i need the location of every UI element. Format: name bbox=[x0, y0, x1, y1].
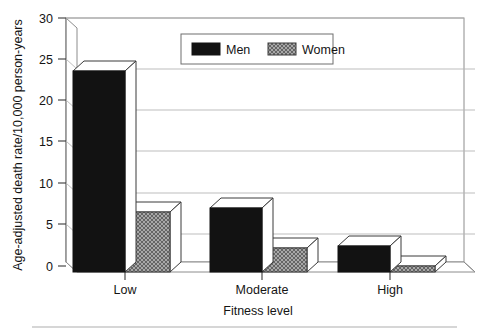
black-swatch-icon bbox=[192, 43, 220, 55]
bar-men-moderate bbox=[210, 198, 273, 272]
x-tick-label-low: Low bbox=[114, 283, 138, 297]
bar-men-high bbox=[338, 236, 401, 272]
x-tick-labels: Low Moderate High bbox=[114, 283, 403, 297]
y-axis-title: Age-adjusted death rate/10,000 person-ye… bbox=[11, 19, 25, 271]
x-axis-title: Fitness level bbox=[223, 304, 292, 318]
figure-panel: 30 25 20 15 10 5 0 Age-adjusted death ra… bbox=[0, 0, 486, 334]
y-tick-label: 0 bbox=[46, 260, 53, 274]
y-tick-label: 30 bbox=[39, 12, 53, 26]
bar-men-low bbox=[73, 61, 136, 272]
legend: Men Women bbox=[181, 34, 345, 64]
y-tick-label: 5 bbox=[46, 218, 53, 232]
y-tick-labels: 30 25 20 15 10 5 0 bbox=[39, 12, 53, 274]
x-tick-label-high: High bbox=[377, 283, 403, 297]
y-tick-label: 15 bbox=[39, 135, 53, 149]
y-tick-label: 20 bbox=[39, 94, 53, 108]
x-axis-ticks bbox=[125, 272, 390, 280]
y-axis-ticks bbox=[58, 18, 66, 266]
y-tick-label: 25 bbox=[39, 53, 53, 67]
hatched-swatch-icon bbox=[268, 43, 296, 55]
bar-chart: 30 25 20 15 10 5 0 Age-adjusted death ra… bbox=[0, 0, 486, 334]
x-tick-label-moderate: Moderate bbox=[236, 283, 289, 297]
legend-label-women: Women bbox=[302, 43, 345, 57]
legend-label-men: Men bbox=[226, 43, 250, 57]
y-tick-label: 10 bbox=[39, 177, 53, 191]
